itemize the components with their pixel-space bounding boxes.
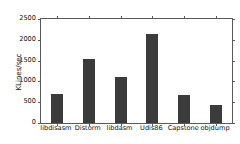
y-tick-label: 2500 bbox=[19, 14, 36, 22]
bar bbox=[115, 77, 127, 123]
y-tick-label: 0 bbox=[32, 118, 36, 126]
plot-inner bbox=[41, 19, 232, 123]
x-axis-tick-labels: libdisasmDistormlibdasmUdis86Capstoneobj… bbox=[40, 124, 231, 136]
y-tick-mark-right bbox=[232, 61, 235, 62]
x-tick-mark-top bbox=[121, 16, 122, 19]
x-tick-mark-top bbox=[184, 16, 185, 19]
y-tick-mark bbox=[38, 40, 41, 41]
y-tick-mark bbox=[38, 19, 41, 20]
bar bbox=[146, 34, 158, 123]
y-tick-label: 1500 bbox=[19, 56, 36, 64]
x-tick-mark-top bbox=[152, 16, 153, 19]
y-tick-mark-right bbox=[232, 40, 235, 41]
x-tick-label: Udis86 bbox=[140, 124, 163, 132]
y-tick-mark bbox=[38, 81, 41, 82]
plot-area bbox=[40, 18, 233, 124]
y-tick-mark-right bbox=[232, 19, 235, 20]
x-tick-label: objdump bbox=[201, 124, 230, 132]
bar bbox=[83, 59, 95, 123]
y-tick-label: 500 bbox=[23, 97, 36, 105]
y-tick-mark-right bbox=[232, 123, 235, 124]
y-axis-tick-labels: 05001000150020002500 bbox=[18, 14, 38, 126]
bar bbox=[210, 105, 222, 123]
x-tick-mark-top bbox=[57, 16, 58, 19]
bar bbox=[178, 95, 190, 123]
x-tick-mark-top bbox=[89, 16, 90, 19]
x-tick-label: libdasm bbox=[107, 124, 133, 132]
y-tick-label: 2000 bbox=[19, 35, 36, 43]
x-tick-label: Distorm bbox=[75, 124, 101, 132]
bar-chart-figure: KLines/sec 05001000150020002500 libdisas… bbox=[0, 0, 240, 144]
y-tick-mark-right bbox=[232, 102, 235, 103]
y-tick-label: 1000 bbox=[19, 76, 36, 84]
y-tick-mark bbox=[38, 61, 41, 62]
y-tick-mark-right bbox=[232, 81, 235, 82]
bar bbox=[51, 94, 63, 123]
x-tick-label: Capstone bbox=[168, 124, 199, 132]
x-tick-label: libdisasm bbox=[40, 124, 71, 132]
y-tick-mark bbox=[38, 102, 41, 103]
x-tick-mark-top bbox=[216, 16, 217, 19]
